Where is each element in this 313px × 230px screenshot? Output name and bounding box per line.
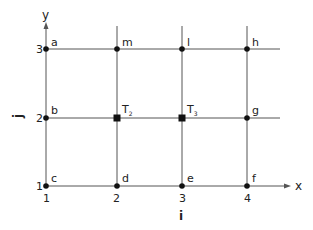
y-tick-1: 1 bbox=[36, 180, 43, 193]
y-tick-3: 3 bbox=[36, 43, 43, 56]
node-b-label: b bbox=[51, 104, 58, 117]
node-c-label: c bbox=[51, 172, 57, 185]
node-b-marker bbox=[43, 115, 49, 121]
node-h-label: h bbox=[252, 36, 259, 49]
x-tick-1: 1 bbox=[43, 192, 50, 205]
node-T3-marker bbox=[179, 115, 186, 122]
i-axis-label: i bbox=[179, 209, 183, 223]
node-f-label: f bbox=[252, 172, 257, 185]
node-e-marker bbox=[179, 183, 185, 189]
x-tick-2: 2 bbox=[113, 192, 120, 205]
x-tick-3: 3 bbox=[179, 192, 186, 205]
node-h-marker bbox=[244, 46, 250, 52]
x-axis-arrow-icon bbox=[284, 184, 291, 189]
node-e-label: e bbox=[187, 172, 194, 185]
node-g-label: g bbox=[252, 104, 259, 117]
tick-labels: 1 2 3 4 1 2 3 i j bbox=[11, 43, 251, 223]
node-T2-marker bbox=[114, 115, 121, 122]
node-f-marker bbox=[244, 183, 250, 189]
node-labels: a m l h b T2 T3 g c d e f bbox=[51, 36, 259, 185]
node-g-marker bbox=[244, 115, 250, 121]
j-axis-label: j bbox=[11, 114, 25, 119]
node-T3-label: T3 bbox=[186, 103, 198, 117]
y-tick-2: 2 bbox=[36, 112, 43, 125]
node-d-label: d bbox=[122, 172, 129, 185]
y-axis-arrow-icon bbox=[44, 22, 49, 29]
node-m-label: m bbox=[122, 36, 133, 49]
node-l-marker bbox=[179, 46, 185, 52]
node-c-marker bbox=[43, 183, 49, 189]
node-a-label: a bbox=[51, 36, 58, 49]
y-axis-label: y bbox=[42, 8, 49, 22]
x-axis-label: x bbox=[295, 179, 302, 193]
axes: x y bbox=[42, 8, 302, 193]
grid-diagram: x y 1 2 3 4 1 2 3 i j a m l h b T2 T3 bbox=[0, 0, 313, 230]
node-T2-label: T2 bbox=[121, 103, 133, 117]
node-d-marker bbox=[114, 183, 120, 189]
node-l-label: l bbox=[187, 36, 190, 49]
x-tick-4: 4 bbox=[244, 192, 251, 205]
node-m-marker bbox=[114, 46, 120, 52]
node-a-marker bbox=[43, 46, 49, 52]
